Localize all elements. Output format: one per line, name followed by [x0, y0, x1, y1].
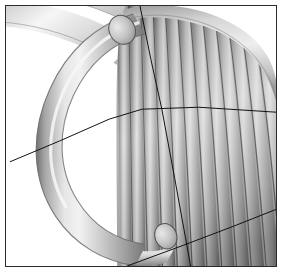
image-frame: [5, 5, 277, 267]
section-line-diagonal: [127, 209, 276, 266]
render-viewport: [6, 6, 276, 266]
figure-container: [0, 0, 284, 274]
section-line-horizontal: [10, 107, 276, 162]
wireframe-section-lines: [6, 6, 276, 266]
section-line-vertical: [140, 6, 191, 266]
